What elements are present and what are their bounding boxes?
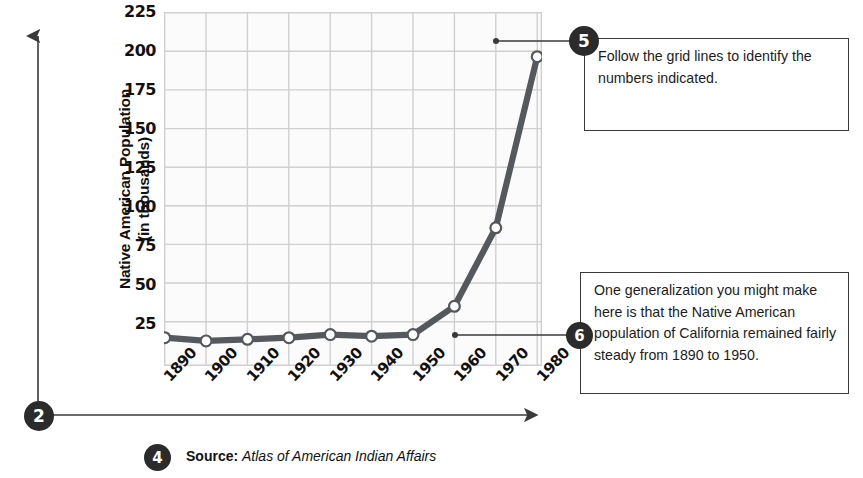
x-axis-arrow	[24, 400, 554, 432]
y-tick-150: 150	[98, 119, 156, 138]
y-tick-25: 25	[98, 314, 156, 333]
marker-5: 5	[569, 26, 599, 56]
plot-area	[164, 12, 542, 366]
data-point	[242, 334, 253, 345]
data-point	[449, 301, 460, 312]
data-point	[325, 329, 336, 340]
y-tick-100: 100	[98, 197, 156, 216]
data-point	[490, 222, 501, 233]
callout-gridlines: Follow the grid lines to identify the nu…	[584, 38, 849, 131]
source-line: Source: Atlas of American Indian Affairs	[186, 448, 436, 464]
y-axis-title-line2: (in thousands)	[135, 137, 152, 241]
y-axis-title-wrap: Native American Population (in thousands…	[48, 20, 94, 380]
callout-generalization: One generalization you might make here i…	[580, 272, 849, 394]
source-label: Source:	[186, 448, 238, 464]
data-point	[201, 336, 212, 347]
data-point	[366, 331, 377, 342]
data-point	[408, 329, 419, 340]
y-tick-175: 175	[98, 80, 156, 99]
marker-6: 6	[566, 322, 593, 349]
y-tick-75: 75	[98, 236, 156, 255]
data-point	[164, 332, 170, 343]
data-point	[284, 332, 295, 343]
data-point	[532, 51, 542, 62]
plot-svg	[164, 12, 542, 366]
source-title: Atlas of American Indian Affairs	[242, 448, 436, 464]
y-tick-125: 125	[98, 158, 156, 177]
callout-gridlines-text: Follow the grid lines to identify the nu…	[598, 48, 812, 86]
marker-2-origin: 2	[24, 401, 54, 431]
y-tick-50: 50	[98, 275, 156, 294]
callout-generalization-text: One generalization you might make here i…	[594, 282, 836, 363]
y-tick-200: 200	[98, 41, 156, 60]
chart-figure: Native American Population (in thousands…	[0, 0, 863, 478]
marker-4-source: 4	[144, 444, 171, 471]
y-tick-225: 225	[98, 2, 156, 21]
